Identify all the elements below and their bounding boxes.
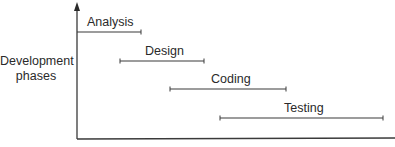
phase-bar-analysis xyxy=(77,30,141,35)
phase-label-testing: Testing xyxy=(284,102,324,115)
phase-diagram: Development phases Analysis Design Codin… xyxy=(0,0,395,147)
phase-bar-testing xyxy=(220,116,383,121)
phase-label-analysis: Analysis xyxy=(87,16,134,29)
phase-bar-coding xyxy=(170,87,286,92)
phase-label-design: Design xyxy=(145,45,184,58)
y-axis-label-line2: phases xyxy=(0,69,72,84)
x-axis xyxy=(77,138,395,139)
y-axis-label-line1: Development xyxy=(0,54,72,69)
phase-bar-design xyxy=(120,59,204,64)
y-axis-label: Development phases xyxy=(0,54,72,84)
phase-label-coding: Coding xyxy=(211,73,251,86)
y-axis-arrow-icon xyxy=(74,2,80,11)
